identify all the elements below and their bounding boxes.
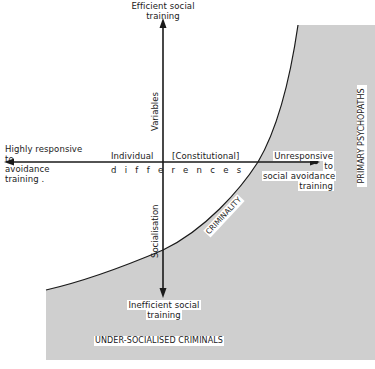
- inefficient-social-training-label: Inefficient social training: [125, 300, 203, 320]
- criminality-shaded-region: [46, 25, 375, 360]
- individual-caption: Individual: [111, 151, 153, 161]
- constitutional-caption: [Constitutional]: [172, 151, 239, 161]
- unresponsive-label: Unresponsive to social avoidance trainin…: [262, 151, 334, 191]
- efficient-social-training-label: Efficient social training: [123, 1, 203, 21]
- under-socialised-criminals-label: UNDER-SOCIALISED CRIMINALS: [94, 336, 224, 346]
- primary-psychopaths-label: PRIMARY PSYCHOPATHS: [357, 85, 367, 187]
- variables-caption: Variables: [150, 87, 160, 131]
- socialisation-caption: Socialisation: [150, 198, 160, 258]
- highly-responsive-label: Highly responsive to avoidance training …: [5, 144, 82, 184]
- differences-caption: differences: [111, 165, 250, 175]
